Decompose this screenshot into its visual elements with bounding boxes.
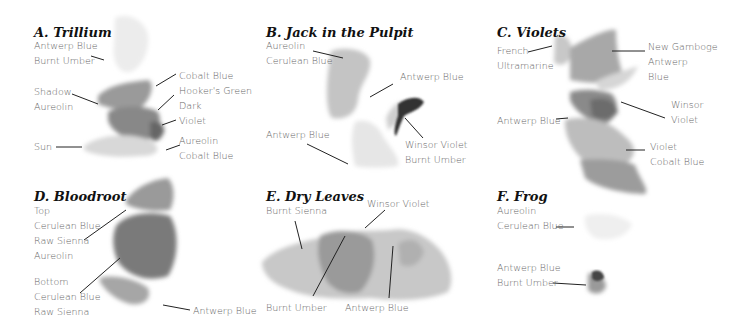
label-line: Cerulean Blue — [34, 218, 100, 233]
label-trillium-dark-violet: Dark Violet — [179, 98, 206, 128]
label-line: French — [497, 43, 554, 58]
label-line: Cobalt Blue — [179, 148, 233, 163]
label-jack-antwerp-top: Antwerp Blue — [400, 69, 464, 84]
label-line: Cerulean Blue — [34, 289, 100, 304]
frog-dark-swatch — [592, 270, 604, 281]
label-violets-gamboge-antwerp: New Gamboge Antwerp Blue — [648, 39, 718, 84]
label-frog-antwerp-burnt: Antwerp Blue Burnt Umber — [497, 260, 561, 290]
label-jack-aureolin-cerulean: Aureolin Cerulean Blue — [266, 38, 332, 68]
frog-swatches — [585, 214, 632, 293]
label-line: Antwerp Blue — [266, 127, 330, 142]
label-bloodroot-bottom: Bottom Cerulean Blue Raw Sienna — [34, 274, 100, 319]
label-line: Aureolin — [34, 99, 73, 114]
label-dry-leaves-burnt-umber: Burnt Umber — [266, 300, 327, 315]
watercolor-swatches-layer — [0, 0, 739, 332]
label-line: Bottom — [34, 274, 100, 289]
violets-swatches — [554, 30, 646, 194]
label-line: Ultramarine — [497, 58, 554, 73]
label-line: New Gamboge — [648, 39, 718, 54]
label-dry-leaves-winsor: Winsor Violet — [367, 196, 429, 211]
label-line: Antwerp Blue — [34, 38, 98, 53]
label-line: Burnt Sienna — [266, 203, 327, 218]
label-bloodroot-antwerp: Antwerp Blue — [193, 303, 257, 318]
label-line: Burnt Umber — [405, 152, 467, 167]
label-trillium-shadow: Shadow Aureolin — [34, 84, 73, 114]
label-line: Raw Sienna — [34, 233, 100, 248]
label-line: Antwerp Blue — [400, 69, 464, 84]
label-line: Antwerp — [648, 54, 718, 69]
jack-in-the-pulpit-swatches — [327, 49, 410, 168]
label-line: Winsor Violet — [367, 196, 429, 211]
label-line: Burnt Umber — [266, 300, 327, 315]
label-frog-aureolin-cerulean: Aureolin Cerulean Blue — [497, 203, 563, 233]
label-line: Burnt Umber — [497, 275, 561, 290]
label-line: Winsor Violet — [405, 137, 467, 152]
label-line: Winsor — [671, 97, 704, 112]
label-line: Dark — [179, 98, 206, 113]
label-line: Hooker's Green — [179, 83, 252, 98]
label-line: Cobalt Blue — [179, 68, 233, 83]
label-violets-winsor-violet: Winsor Violet — [671, 97, 704, 127]
panel-title-frog: F. Frog — [497, 189, 548, 204]
label-violets-antwerp: Antwerp Blue — [497, 113, 561, 128]
label-line: Aureolin — [179, 133, 233, 148]
panel-title-violets: C. Violets — [497, 25, 566, 40]
label-trillium-cobalt: Cobalt Blue — [179, 68, 233, 83]
jack-dark-swatch — [395, 98, 424, 136]
label-line: Antwerp Blue — [497, 260, 561, 275]
label-line: Cerulean Blue — [497, 218, 563, 233]
label-trillium-aureolin-cobalt: Aureolin Cobalt Blue — [179, 133, 233, 163]
label-trillium-antwerp-burnt: Antwerp Blue Burnt Umber — [34, 38, 98, 68]
label-jack-antwerp-bottom: Antwerp Blue — [266, 127, 330, 142]
dry-leaves-swatches — [262, 229, 451, 300]
panel-title-bloodroot: D. Bloodroot — [34, 189, 126, 204]
label-line: Cobalt Blue — [650, 154, 704, 169]
label-trillium-sun: Sun — [34, 139, 52, 154]
label-bloodroot-top: Top Cerulean Blue Raw Sienna Aureolin — [34, 203, 100, 263]
label-line: Aureolin — [497, 203, 563, 218]
label-line: Violet — [650, 139, 704, 154]
label-violets-french-ultramarine: French Ultramarine — [497, 43, 554, 73]
label-line: Raw Sienna — [34, 304, 100, 319]
label-dry-leaves-burnt-sienna: Burnt Sienna — [266, 203, 327, 218]
panel-title-dry-leaves: E. Dry Leaves — [266, 189, 364, 204]
label-line: Violet — [671, 112, 704, 127]
label-violets-violet-cobalt: Violet Cobalt Blue — [650, 139, 704, 169]
label-line: Antwerp Blue — [497, 113, 561, 128]
label-line: Aureolin — [266, 38, 332, 53]
label-line: Top — [34, 203, 100, 218]
label-line: Aureolin — [34, 248, 100, 263]
label-line: Antwerp Blue — [193, 303, 257, 318]
label-line: Antwerp Blue — [345, 300, 409, 315]
label-line: Shadow — [34, 84, 73, 99]
label-line: Burnt Umber — [34, 53, 98, 68]
label-dry-leaves-antwerp: Antwerp Blue — [345, 300, 409, 315]
label-trillium-hookers: Hooker's Green — [179, 83, 252, 98]
label-line: Cerulean Blue — [266, 53, 332, 68]
label-line: Violet — [179, 113, 206, 128]
label-jack-winsor-burnt: Winsor Violet Burnt Umber — [405, 137, 467, 167]
label-line: Blue — [648, 69, 718, 84]
label-line: Sun — [34, 139, 52, 154]
